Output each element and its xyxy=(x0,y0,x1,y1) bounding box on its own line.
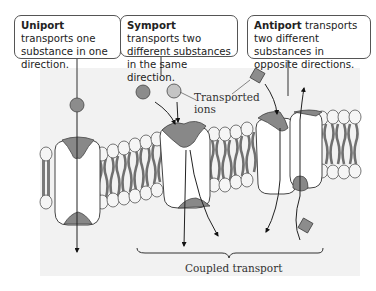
transported-ions-line1: Transported xyxy=(194,91,260,103)
uniport-ion xyxy=(70,98,84,112)
symport-ion-1 xyxy=(136,85,150,99)
antiport-callout: Antiport transports two different substa… xyxy=(247,15,371,59)
uniport-term: Uniport xyxy=(21,20,64,31)
antiport-term: Antiport xyxy=(254,20,302,31)
symport-term: Symport xyxy=(127,20,176,31)
uniport-callout: Uniport transports one substance in one … xyxy=(14,15,121,59)
transported-ions-line2: ions xyxy=(194,103,260,115)
symport-ion-2 xyxy=(167,84,181,98)
membrane-transport-diagram: Uniport transports one substance in one … xyxy=(0,0,376,291)
symport-callout: Symport transports two different substan… xyxy=(120,15,238,57)
transported-ions-label: Transported ions xyxy=(194,91,260,115)
coupled-transport-label: Coupled transport xyxy=(185,262,282,274)
